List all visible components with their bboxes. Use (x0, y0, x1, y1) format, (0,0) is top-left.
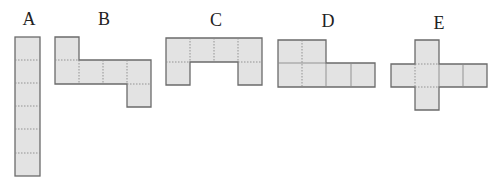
net-d (278, 40, 375, 87)
net-e (391, 40, 487, 110)
net-c (166, 38, 262, 85)
net-b (55, 37, 151, 107)
nets-diagram (0, 0, 498, 188)
net-a (15, 37, 40, 176)
